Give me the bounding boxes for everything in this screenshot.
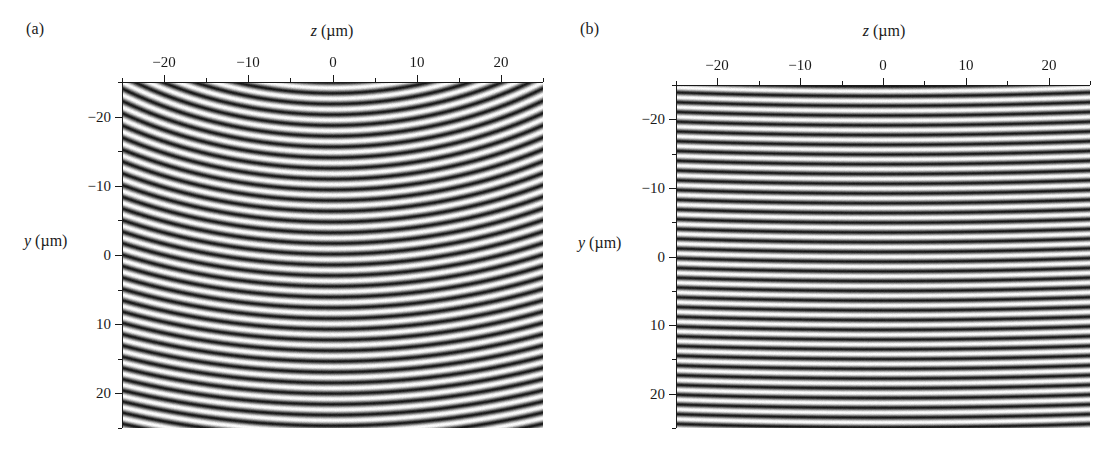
x-axis-minor-tick [759, 81, 760, 85]
x-axis-tick-label: 20 [494, 54, 509, 71]
x-axis-major-tick [800, 78, 801, 85]
y-axis-major-tick [115, 393, 122, 394]
y-axis-major-tick [115, 186, 122, 187]
y-axis-minor-tick [672, 222, 676, 223]
y-axis-minor-tick [118, 359, 122, 360]
x-axis-spine [676, 85, 1090, 86]
x-axis-major-tick [717, 78, 718, 85]
y-axis-minor-tick [118, 428, 122, 429]
y-axis-tick-label: −20 [623, 111, 665, 128]
x-axis-minor-tick [206, 78, 207, 82]
panel-a-plot-area [122, 82, 543, 428]
x-axis-tick-label: 0 [879, 57, 887, 74]
x-axis-tick-label: 10 [410, 54, 425, 71]
y-axis-minor-tick [672, 291, 676, 292]
y-axis-tick-label: 10 [69, 316, 111, 333]
x-axis-tick-label: 20 [1042, 57, 1057, 74]
panel-b: (b) z (µm) y (µm) −20−1001020−20−1001020 [557, 0, 1114, 458]
y-axis-tick-label: −20 [69, 109, 111, 126]
figure-root: (a) z (µm) y (µm) −20−1001020−20−1001020… [0, 0, 1115, 458]
y-axis-major-tick [669, 257, 676, 258]
x-axis-major-tick [966, 78, 967, 85]
y-axis-major-tick [669, 325, 676, 326]
y-axis-major-tick [669, 394, 676, 395]
x-axis-major-tick [333, 75, 334, 82]
y-axis-minor-tick [118, 151, 122, 152]
x-axis-tick-label: 10 [959, 57, 974, 74]
x-axis-minor-tick [375, 78, 376, 82]
y-axis-minor-tick [672, 154, 676, 155]
panel-a-x-axis-title: z (µm) [311, 22, 354, 40]
x-axis-minor-tick [459, 78, 460, 82]
x-axis-tick-label: −20 [152, 54, 175, 71]
x-axis-unit: (µm) [317, 22, 353, 39]
y-axis-minor-tick [118, 82, 122, 83]
y-axis-unit: (µm) [585, 234, 621, 251]
x-axis-tick-label: −10 [788, 57, 811, 74]
y-axis-major-tick [669, 119, 676, 120]
x-axis-major-tick [417, 75, 418, 82]
panel-a-label: (a) [26, 20, 44, 38]
x-axis-major-tick [1049, 78, 1050, 85]
x-axis-minor-tick [924, 81, 925, 85]
y-axis-tick-label: 10 [623, 317, 665, 334]
y-axis-tick-label: 0 [69, 247, 111, 264]
x-axis-major-tick [501, 75, 502, 82]
panel-b-fringe-pattern [676, 85, 1090, 428]
panel-b-plot-area [676, 85, 1090, 428]
x-axis-unit: (µm) [869, 22, 905, 39]
x-axis-major-tick [883, 78, 884, 85]
y-axis-major-tick [669, 188, 676, 189]
panel-a-y-axis-title: y (µm) [24, 232, 67, 250]
x-axis-minor-tick [122, 78, 123, 82]
y-axis-minor-tick [118, 220, 122, 221]
y-axis-minor-tick [672, 359, 676, 360]
y-axis-spine [676, 85, 677, 428]
x-axis-minor-tick [543, 78, 544, 82]
panel-b-y-axis-title: y (µm) [578, 234, 621, 252]
y-axis-tick-label: 0 [623, 249, 665, 266]
y-axis-unit: (µm) [31, 232, 67, 249]
y-axis-spine [122, 82, 123, 428]
y-axis-tick-label: 20 [623, 386, 665, 403]
y-axis-tick-label: −10 [623, 180, 665, 197]
panel-b-label: (b) [580, 20, 599, 38]
y-axis-minor-tick [672, 428, 676, 429]
x-axis-spine [122, 82, 543, 83]
x-axis-minor-tick [1090, 81, 1091, 85]
x-axis-minor-tick [290, 78, 291, 82]
panel-a-fringe-pattern [122, 82, 543, 428]
y-axis-major-tick [115, 324, 122, 325]
x-axis-major-tick [248, 75, 249, 82]
x-axis-minor-tick [842, 81, 843, 85]
panel-b-x-axis-title: z (µm) [863, 22, 906, 40]
y-axis-minor-tick [118, 290, 122, 291]
y-axis-tick-label: −10 [69, 178, 111, 195]
x-axis-minor-tick [1007, 81, 1008, 85]
x-axis-tick-label: −10 [236, 54, 259, 71]
x-axis-major-tick [164, 75, 165, 82]
x-axis-tick-label: −20 [705, 57, 728, 74]
y-axis-tick-label: 20 [69, 385, 111, 402]
y-axis-minor-tick [672, 85, 676, 86]
y-axis-major-tick [115, 255, 122, 256]
y-axis-major-tick [115, 117, 122, 118]
x-axis-minor-tick [676, 81, 677, 85]
x-axis-tick-label: 0 [329, 54, 337, 71]
panel-a: (a) z (µm) y (µm) −20−1001020−20−1001020 [0, 0, 557, 458]
